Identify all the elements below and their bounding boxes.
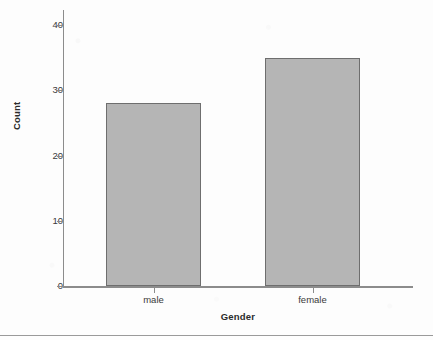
x-axis-line	[63, 286, 413, 288]
y-axis-line	[63, 10, 64, 287]
y-axis-tick-mark	[57, 25, 63, 26]
y-axis-tick-mark	[57, 221, 63, 222]
paper-texture-overlay	[0, 0, 433, 340]
x-axis-tick-mark	[154, 288, 155, 293]
bar-chart-figure: 010203040 Count malefemale Gender	[0, 0, 433, 340]
x-axis-tick-label: male	[109, 295, 199, 305]
y-axis-title: Count	[11, 102, 22, 130]
bar-male	[106, 103, 201, 286]
x-axis-title: Gender	[63, 311, 413, 322]
y-axis-tick-mark	[57, 156, 63, 157]
bottom-divider-rule	[0, 335, 433, 336]
x-axis-tick-mark	[313, 288, 314, 293]
x-axis-tick-label: female	[268, 295, 358, 305]
y-axis-tick-mark	[57, 90, 63, 91]
bar-female	[265, 58, 360, 286]
